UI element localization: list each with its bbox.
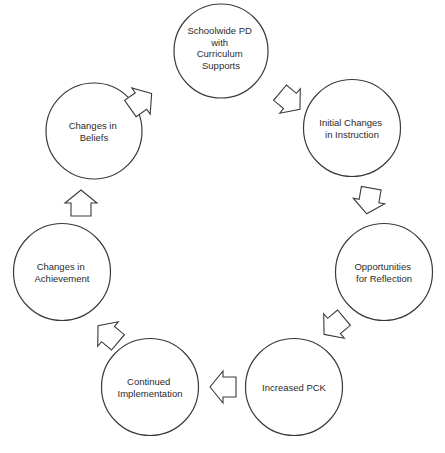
- node-label: Changes in Achievement: [35, 261, 90, 284]
- node-label-line: Achievement: [35, 273, 90, 284]
- node-label: Initial Changes in Instruction: [319, 117, 385, 140]
- node-label: Increased PCK: [262, 382, 327, 393]
- node-changes-in-achievement: Changes in Achievement: [14, 224, 111, 321]
- node-label: Continued Implementation: [118, 376, 183, 399]
- block-arrow-icon: [270, 80, 310, 121]
- node-schoolwide-pd: Schoolwide PD with Curriculum Supports: [174, 4, 268, 98]
- node-label-line: Initial Changes: [319, 117, 382, 128]
- node-label: Opportunities for Reflection: [354, 261, 413, 284]
- block-arrow-icon: [351, 185, 387, 216]
- node-label-line: Beliefs: [80, 132, 109, 143]
- node-opportunities-for-reflection: Opportunities for Reflection: [336, 224, 433, 321]
- node-label-line: Changes in: [69, 120, 117, 131]
- node-label-line: Implementation: [118, 388, 183, 399]
- node-label-line: Supports: [202, 60, 240, 71]
- node-label-line: in Instruction: [325, 129, 379, 140]
- node-label-line: with: [210, 37, 228, 48]
- node-initial-changes: Initial Changes in Instruction: [304, 80, 401, 177]
- node-label-line: Continued: [127, 376, 170, 387]
- node-continued-implementation: Continued Implementation: [102, 339, 199, 436]
- node-label-line: Schoolwide PD: [187, 25, 252, 36]
- node-increased-pck: Increased PCK: [246, 339, 343, 436]
- node-label-line: for Reflection: [356, 273, 412, 284]
- block-arrow-icon: [314, 305, 354, 346]
- node-label-line: Changes in: [37, 261, 85, 272]
- node-label-line: Opportunities: [354, 261, 411, 272]
- block-arrow-icon: [65, 190, 97, 216]
- node-label-line: Curriculum: [197, 48, 243, 59]
- block-arrow-icon: [210, 371, 236, 403]
- node-label-line: Increased PCK: [262, 382, 327, 393]
- node-changes-in-beliefs: Changes in Beliefs: [46, 83, 142, 179]
- cycle-diagram: Schoolwide PD with Curriculum Supports I…: [0, 0, 445, 453]
